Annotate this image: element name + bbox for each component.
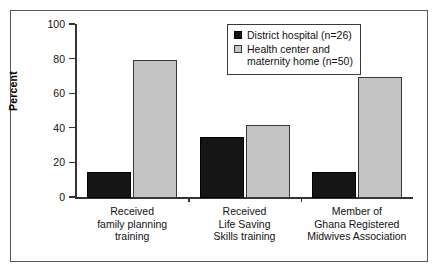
y-tick-label: 0: [59, 192, 69, 203]
legend-label: District hospital (n=26): [247, 29, 352, 42]
legend-entry: District hospital (n=26): [234, 29, 353, 42]
chart-figure: Percent 020406080100 Receivedfamily plan…: [10, 10, 428, 262]
x-tick: [301, 197, 302, 202]
legend-label: Health center and maternity home (n=50): [247, 43, 353, 68]
chart-legend: District hospital (n=26) Health center a…: [227, 24, 361, 75]
y-tick: 0: [69, 196, 75, 197]
x-category-label-line: Received: [68, 205, 196, 218]
x-category-label-line: Member of: [293, 205, 421, 218]
bar: [246, 125, 290, 198]
x-category-label-line: Ghana Registered: [293, 218, 421, 231]
y-tick-label: 20: [53, 157, 69, 168]
y-axis-title: Percent: [7, 71, 19, 111]
y-tick-label: 60: [53, 88, 69, 99]
y-tick: 40: [69, 127, 75, 128]
bar: [200, 137, 244, 198]
y-tick: 60: [69, 93, 75, 94]
y-tick: 80: [69, 58, 75, 59]
x-category-label-line: Received: [180, 205, 308, 218]
bar: [312, 172, 356, 198]
x-category-label: ReceivedLife SavingSkills training: [180, 205, 308, 243]
bar: [358, 77, 402, 198]
x-category-label-line: Skills training: [180, 230, 308, 243]
dark-swatch-icon: [234, 31, 242, 39]
bar: [133, 60, 177, 198]
x-category-label-line: Midwives Association: [293, 230, 421, 243]
x-category-label: Receivedfamily planningtraining: [68, 205, 196, 243]
y-tick: 100: [69, 23, 75, 24]
legend-entry: Health center and maternity home (n=50): [234, 43, 353, 68]
y-tick-label: 100: [47, 19, 69, 30]
y-tick-label: 80: [53, 53, 69, 64]
x-category-label-line: training: [68, 230, 196, 243]
bar: [87, 172, 131, 198]
x-category-label-line: Life Saving: [180, 218, 308, 231]
x-tick: [188, 197, 189, 202]
y-tick: 20: [69, 162, 75, 163]
light-swatch-icon: [234, 45, 242, 53]
y-tick-label: 40: [53, 123, 69, 134]
x-category-label: Member ofGhana RegisteredMidwives Associ…: [293, 205, 421, 243]
x-category-label-line: family planning: [68, 218, 196, 231]
